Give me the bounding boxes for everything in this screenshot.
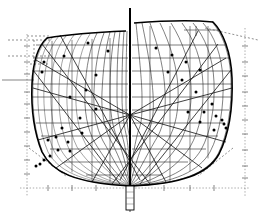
offset-point-fore-6: [195, 91, 198, 94]
offset-point-after-2: [63, 55, 66, 58]
offset-point-after-16: [43, 159, 46, 162]
offset-point-after-9: [79, 117, 82, 120]
offset-point-after-4: [41, 71, 44, 74]
offset-point-after-10: [61, 127, 64, 130]
offset-point-fore-8: [203, 111, 206, 114]
offset-point-after-17: [39, 163, 42, 166]
offset-point-fore-4: [167, 71, 170, 74]
offset-point-after-5: [95, 74, 98, 77]
offset-point-fore-15: [187, 111, 190, 114]
offset-point-fore-14: [199, 121, 202, 124]
offset-point-fore-7: [211, 103, 214, 106]
offset-point-fore-0: [155, 47, 158, 50]
offset-point-fore-12: [225, 127, 228, 130]
offset-point-after-6: [85, 89, 88, 92]
offset-point-after-15: [49, 155, 52, 158]
offset-point-fore-1: [171, 54, 174, 57]
offset-point-after-19: [69, 150, 72, 153]
offset-point-fore-9: [215, 115, 218, 118]
offset-point-after-8: [95, 108, 98, 111]
offset-point-after-0: [107, 50, 110, 53]
offset-point-after-14: [57, 149, 60, 152]
offset-point-fore-10: [221, 119, 224, 122]
offset-point-after-1: [87, 42, 90, 45]
body-plan-drawing: [0, 0, 265, 217]
offset-point-after-3: [43, 61, 46, 64]
offset-point-after-18: [35, 165, 38, 168]
offset-point-fore-11: [223, 123, 226, 126]
offset-point-fore-3: [199, 69, 202, 72]
offset-point-after-7: [69, 96, 72, 99]
keel-group: [126, 186, 134, 210]
offset-point-after-12: [81, 132, 84, 135]
offset-point-fore-5: [181, 79, 184, 82]
offset-point-fore-13: [213, 129, 216, 132]
offset-point-fore-2: [185, 61, 188, 64]
offset-point-after-13: [67, 141, 70, 144]
offset-point-after-11: [47, 139, 50, 142]
offset-point-after-20: [55, 136, 58, 139]
